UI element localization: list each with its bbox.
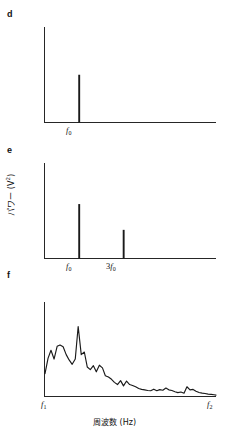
panel-f-tick-f1-sub: 1	[43, 404, 46, 410]
panel-e-tick-3f0-sub: 0	[113, 266, 116, 272]
panel-f-tick-f1: f1	[41, 400, 46, 409]
panel-d-axes	[45, 27, 217, 123]
panel-d-tick-f0: f0	[66, 126, 71, 135]
panel-f-tick-f2-sub: 2	[209, 404, 212, 410]
panel-f-spectrum-curve	[45, 326, 216, 395]
y-axis-label-tail: )	[7, 174, 16, 177]
panel-d-tick-f0-sub: 0	[68, 130, 71, 136]
spectra-plot-svg	[0, 0, 229, 438]
y-axis-label-text: パワー (V	[7, 181, 16, 216]
figure-container: d f0 e パワー (V2) f0	[0, 0, 229, 438]
y-axis-label: パワー (V2)	[6, 162, 16, 228]
panel-f-tick-f2: f2	[207, 400, 212, 409]
panel-e-tick-f0: f0	[66, 262, 71, 271]
panel-label-e: e	[7, 146, 12, 155]
x-axis-label: 周波数 (Hz)	[0, 419, 229, 427]
y-axis-label-exponent: 2	[5, 177, 11, 181]
panel-label-f: f	[7, 271, 10, 280]
panel-e-axes	[45, 163, 217, 259]
panel-e-tick-f0-sub: 0	[68, 266, 71, 272]
panel-f-axes	[45, 302, 217, 397]
panel-e-tick-3f0: 3f0	[106, 262, 116, 271]
